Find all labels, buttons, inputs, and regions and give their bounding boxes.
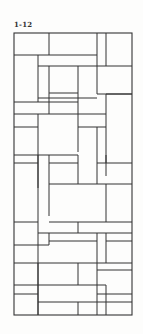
outer-frame: [14, 33, 132, 315]
partition-lines: [14, 33, 132, 315]
panel-layout-diagram: [0, 0, 143, 334]
